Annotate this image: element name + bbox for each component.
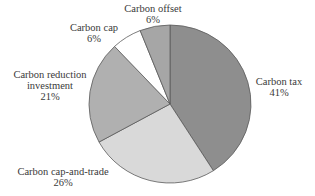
label-percent: 6% [124, 14, 181, 25]
pie-chart: Carbon offset 6% Carbon cap 6% Carbon re… [0, 0, 315, 196]
label-carbon-reduction-investment: Carbon reduction investment 21% [13, 69, 86, 102]
label-carbon-cap: Carbon cap 6% [70, 22, 118, 44]
label-name-line2: investment [13, 80, 86, 91]
label-percent: 26% [17, 177, 108, 188]
label-name: Carbon tax [256, 76, 302, 87]
label-percent: 6% [70, 33, 118, 44]
label-name: Carbon offset [124, 3, 181, 14]
label-carbon-tax: Carbon tax 41% [256, 76, 302, 98]
label-name-line1: Carbon reduction [13, 69, 86, 80]
label-carbon-offset: Carbon offset 6% [124, 3, 181, 25]
label-carbon-cap-and-trade: Carbon cap-and-trade 26% [17, 166, 108, 188]
label-percent: 21% [13, 91, 86, 102]
label-percent: 41% [256, 87, 302, 98]
label-name: Carbon cap-and-trade [17, 166, 108, 177]
label-name: Carbon cap [70, 22, 118, 33]
